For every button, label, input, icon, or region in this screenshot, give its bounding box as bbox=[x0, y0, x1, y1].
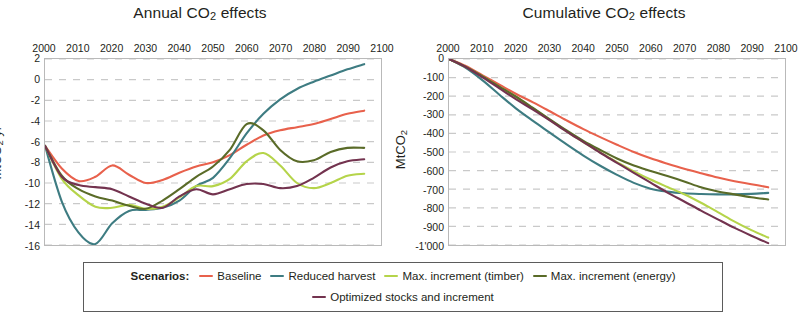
chart-title-annual-sub: 2 bbox=[210, 10, 216, 22]
y-tick-label: -800 bbox=[423, 202, 444, 214]
legend-swatch bbox=[312, 296, 326, 299]
x-axis-ticks-cumulative: 2000201020202030204020502060207020802090… bbox=[448, 42, 786, 55]
x-tick-label: 2020 bbox=[504, 42, 527, 54]
plot-svg-cumulative bbox=[449, 59, 785, 245]
x-tick-label: 2030 bbox=[134, 42, 157, 54]
figure: Annual CO2 effects MtCO2 yr-1 2000201020… bbox=[0, 0, 806, 316]
legend-item-label: Optimized stocks and increment bbox=[330, 291, 494, 303]
y-tick-label: -1'000 bbox=[415, 240, 444, 252]
series-line bbox=[45, 123, 364, 209]
legend-swatch bbox=[533, 275, 547, 278]
y-tick-label: -6 bbox=[31, 136, 40, 148]
x-tick-label: 2040 bbox=[572, 42, 595, 54]
y-tick-label: -200 bbox=[423, 90, 444, 102]
y-tick-label: -600 bbox=[423, 165, 444, 177]
legend-title: Scenarios: bbox=[131, 270, 190, 282]
y-axis-ticks-annual: 20-2-4-6-8-10-12-14-16 bbox=[0, 58, 40, 246]
legend-item-label: Baseline bbox=[217, 270, 261, 282]
y-tick-label: -12 bbox=[25, 198, 40, 210]
x-tick-label: 2010 bbox=[470, 42, 493, 54]
legend-item[interactable]: Max. increment (energy) bbox=[533, 270, 676, 282]
chart-title-cumulative-post: effects bbox=[635, 4, 686, 21]
y-tick-label: -100 bbox=[423, 71, 444, 83]
plot-area-cumulative bbox=[448, 58, 786, 246]
plot-area-annual bbox=[44, 58, 382, 246]
x-tick-label: 2100 bbox=[370, 42, 393, 54]
chart-title-annual: Annual CO2 effects bbox=[0, 4, 400, 22]
chart-title-annual-pre: Annual CO bbox=[133, 4, 210, 21]
x-tick-label: 2070 bbox=[673, 42, 696, 54]
series-line bbox=[449, 59, 768, 187]
y-tick-label: -900 bbox=[423, 221, 444, 233]
legend-item-label: Max. increment (timber) bbox=[402, 270, 523, 282]
legend-item[interactable]: Max. increment (timber) bbox=[384, 270, 523, 282]
x-tick-label: 2010 bbox=[66, 42, 89, 54]
legend-item-label: Max. increment (energy) bbox=[551, 270, 676, 282]
legend-item[interactable]: Baseline bbox=[199, 270, 261, 282]
y-tick-label: -8 bbox=[31, 156, 40, 168]
y-tick-label: -500 bbox=[423, 146, 444, 158]
legend-row-primary: Scenarios: BaselineReduced harvestMax. i… bbox=[84, 270, 722, 282]
x-tick-label: 2060 bbox=[639, 42, 662, 54]
chart-title-cumulative: Cumulative CO2 effects bbox=[402, 4, 806, 22]
series-line bbox=[449, 59, 768, 243]
x-tick-label: 2080 bbox=[303, 42, 326, 54]
x-tick-label: 2090 bbox=[337, 42, 360, 54]
y-tick-label: -700 bbox=[423, 184, 444, 196]
x-tick-label: 2050 bbox=[605, 42, 628, 54]
x-tick-label: 2070 bbox=[269, 42, 292, 54]
plot-svg-annual bbox=[45, 59, 381, 245]
y-tick-label: -4 bbox=[31, 115, 40, 127]
legend-swatch bbox=[384, 275, 398, 278]
y-axis-ticks-cumulative: 0-100-200-300-400-500-600-700-800-900-1'… bbox=[402, 58, 444, 246]
legend-swatch bbox=[199, 275, 213, 278]
legend: Scenarios: BaselineReduced harvestMax. i… bbox=[83, 262, 723, 312]
y-tick-label: 0 bbox=[438, 52, 444, 64]
y-tick-label: -16 bbox=[25, 240, 40, 252]
x-tick-label: 2080 bbox=[707, 42, 730, 54]
series-line bbox=[45, 64, 364, 244]
x-tick-label: 2030 bbox=[538, 42, 561, 54]
y-tick-label: -14 bbox=[25, 219, 40, 231]
legend-item[interactable]: Optimized stocks and increment bbox=[312, 291, 494, 303]
y-tick-label: -400 bbox=[423, 127, 444, 139]
x-tick-label: 2020 bbox=[100, 42, 123, 54]
legend-row-secondary: Optimized stocks and increment bbox=[84, 291, 722, 303]
chart-title-cumulative-sub: 2 bbox=[629, 10, 635, 22]
chart-title-annual-post: effects bbox=[216, 4, 267, 21]
legend-item[interactable]: Reduced harvest bbox=[270, 270, 375, 282]
series-line bbox=[449, 59, 768, 194]
x-tick-label: 2050 bbox=[201, 42, 224, 54]
chart-panel-cumulative: Cumulative CO2 effects MtCO2 20002010202… bbox=[402, 0, 806, 258]
y-tick-label: -300 bbox=[423, 108, 444, 120]
chart-title-cumulative-pre: Cumulative CO bbox=[522, 4, 628, 21]
y-tick-label: 0 bbox=[34, 73, 40, 85]
y-tick-label: -2 bbox=[31, 94, 40, 106]
y-tick-label: 2 bbox=[34, 52, 40, 64]
y-tick-label: -10 bbox=[25, 177, 40, 189]
legend-item-label: Reduced harvest bbox=[288, 270, 375, 282]
x-tick-label: 2060 bbox=[235, 42, 258, 54]
x-axis-ticks-annual: 2000201020202030204020502060207020802090… bbox=[44, 42, 382, 55]
x-tick-label: 2100 bbox=[774, 42, 797, 54]
x-tick-label: 2040 bbox=[168, 42, 191, 54]
x-tick-label: 2090 bbox=[741, 42, 764, 54]
legend-swatch bbox=[270, 275, 284, 278]
chart-panel-annual: Annual CO2 effects MtCO2 yr-1 2000201020… bbox=[0, 0, 400, 258]
